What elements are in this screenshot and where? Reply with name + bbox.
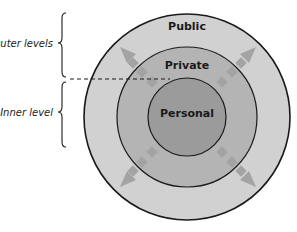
personal-label: Personal	[160, 107, 214, 120]
public-label: Public	[168, 20, 206, 33]
private-label: Private	[165, 59, 210, 72]
outer-levels-label: Outer levels	[0, 38, 53, 49]
diagram-canvas: Public Private Personal Outer levels Inn…	[0, 0, 297, 232]
inner-level-label: Inner level	[0, 107, 53, 118]
levels-diagram: Public Private Personal Outer levels Inn…	[0, 0, 297, 232]
inner-level-brace	[58, 82, 66, 147]
outer-levels-brace	[58, 13, 66, 77]
